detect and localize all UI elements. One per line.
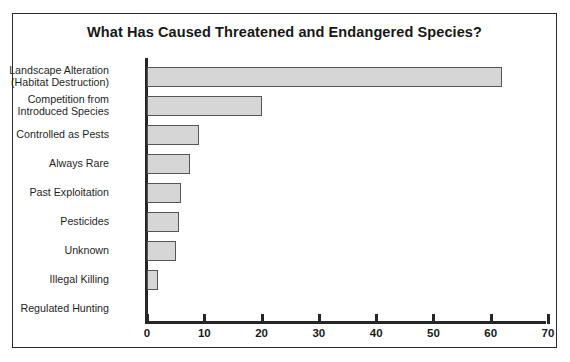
x-tick-mark (261, 314, 264, 324)
x-tick-label: 50 (413, 327, 453, 339)
x-axis-ticks: 010203040506070 (13, 14, 556, 347)
x-tick-mark (547, 314, 550, 324)
x-tick-mark (432, 314, 435, 324)
x-tick-mark (318, 314, 321, 324)
x-tick-label: 70 (528, 327, 568, 339)
x-tick-label: 0 (127, 327, 167, 339)
chart-frame: What Has Caused Threatened and Endangere… (12, 13, 557, 348)
x-tick-label: 10 (184, 327, 224, 339)
x-tick-label: 40 (356, 327, 396, 339)
x-tick-label: 20 (242, 327, 282, 339)
x-tick-mark (490, 314, 493, 324)
x-tick-label: 30 (299, 327, 339, 339)
x-tick-label: 60 (471, 327, 511, 339)
plot-area: Landscape Alteration (Habitat Destructio… (13, 14, 556, 347)
x-tick-mark (146, 314, 149, 324)
x-tick-mark (203, 314, 206, 324)
x-tick-mark (375, 314, 378, 324)
